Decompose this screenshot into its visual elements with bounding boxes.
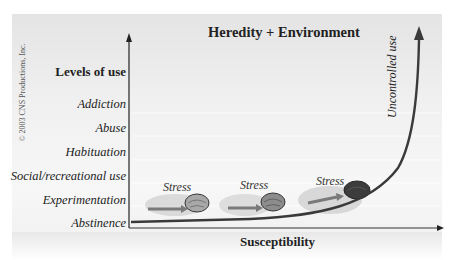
level-habituation: Habituation: [66, 145, 126, 160]
y-axis-heading: Levels of use: [55, 64, 126, 80]
level-experimentation: Experimentation: [43, 193, 126, 208]
level-addiction: Addiction: [77, 97, 126, 112]
copyright-note: © 2003 CNS Productions, Inc.: [18, 33, 27, 153]
stress-label-1: Stress: [163, 180, 191, 195]
stress-label-3: Stress: [316, 174, 344, 189]
stress-figure-1: [145, 194, 209, 216]
level-abuse: Abuse: [95, 121, 126, 136]
x-axis-arrowhead: [437, 225, 444, 231]
x-axis-label: Susceptibility: [240, 234, 315, 250]
stress-label-2: Stress: [240, 178, 268, 193]
y-axis-arrowhead: [126, 33, 132, 42]
level-abstinence: Abstinence: [71, 216, 126, 231]
stress-figure-2: [219, 193, 285, 216]
uncontrolled-use-label: Uncontrolled use: [385, 35, 400, 118]
curve-arrowhead: [414, 26, 424, 40]
level-social-recreational: Social/recreational use: [11, 169, 126, 184]
figure-title: Heredity + Environment: [208, 24, 360, 41]
